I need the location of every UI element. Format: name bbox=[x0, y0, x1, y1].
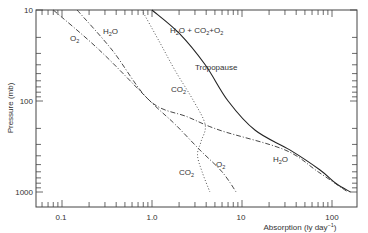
plot-frame bbox=[36, 10, 357, 207]
label-total: H2O + CO2+O2 bbox=[170, 26, 223, 36]
x-tick-label-10: 10 bbox=[237, 213, 246, 222]
y-axis-ticks bbox=[36, 10, 357, 192]
y-axis-title: Pressure (mb) bbox=[6, 82, 15, 133]
label-o2-upper: O2 bbox=[70, 34, 79, 44]
x-tick-label-0.1: 0.1 bbox=[55, 213, 67, 222]
curves bbox=[53, 10, 350, 192]
curve-co2 bbox=[142, 10, 210, 192]
label-o2-lower: O2 bbox=[216, 160, 225, 170]
curve-h2o bbox=[77, 10, 348, 192]
y-tick-label-100: 100 bbox=[20, 97, 34, 106]
x-axis-title: Absorption (ly day−1) bbox=[264, 222, 337, 232]
y-tick-label-10: 10 bbox=[24, 6, 33, 15]
absorption-pressure-chart: 0.1 1.0 10 100 10 100 1000 Absorption (l… bbox=[0, 0, 368, 233]
x-axis-ticks bbox=[42, 10, 332, 207]
label-co2-lower: CO2 bbox=[179, 168, 194, 178]
label-h2o-upper: H2O bbox=[103, 27, 118, 37]
curve-h2o-co2-o2 bbox=[152, 10, 350, 192]
label-co2-mid: CO2 bbox=[171, 85, 186, 95]
label-tropopause: Tropopause bbox=[195, 63, 238, 72]
y-tick-label-1000: 1000 bbox=[15, 188, 33, 197]
x-tick-label-100: 100 bbox=[325, 213, 339, 222]
x-tick-label-1: 1.0 bbox=[146, 213, 158, 222]
label-h2o-lower: H2O bbox=[273, 155, 288, 165]
curve-o2 bbox=[53, 10, 236, 192]
